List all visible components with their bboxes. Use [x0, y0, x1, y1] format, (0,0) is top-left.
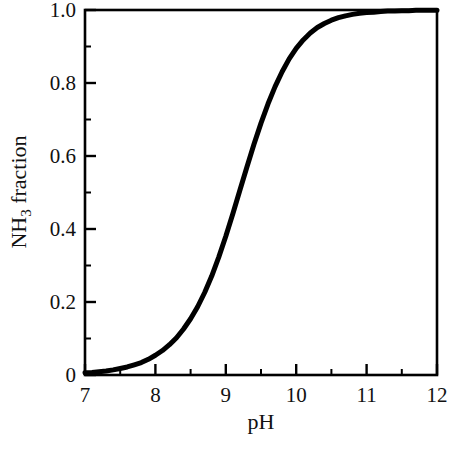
- y-tick-label-0.2: 0.2: [50, 290, 76, 314]
- ph-vs-nh3-fraction-chart: 789101112 00.20.40.60.81.0 pH NH3 fracti…: [0, 0, 456, 449]
- y-tick-label-1.0: 1.0: [50, 0, 76, 22]
- x-axis-title: pH: [248, 409, 275, 434]
- y-axis-title: NH3 fraction: [6, 135, 34, 248]
- y-tick-label-0.4: 0.4: [50, 217, 77, 241]
- x-tick-label-12: 12: [427, 383, 448, 407]
- x-tick-label-8: 8: [150, 383, 161, 407]
- x-tick-label-11: 11: [356, 383, 376, 407]
- x-tick-label-10: 10: [286, 383, 307, 407]
- y-tick-label-0.6: 0.6: [50, 144, 76, 168]
- chart-figure: 789101112 00.20.40.60.81.0 pH NH3 fracti…: [0, 0, 456, 449]
- y-tick-label-0: 0: [66, 363, 77, 387]
- x-tick-label-9: 9: [221, 383, 232, 407]
- x-tick-label-7: 7: [80, 383, 91, 407]
- y-tick-label-0.8: 0.8: [50, 71, 76, 95]
